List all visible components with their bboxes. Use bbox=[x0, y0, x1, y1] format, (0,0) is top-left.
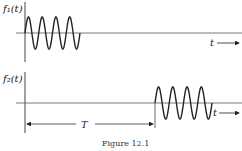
figure-canvas: f₁(t) t f₂(t) t T Figure 12.1 bbox=[0, 0, 242, 151]
figure-caption: Figure 12.1 bbox=[102, 139, 149, 148]
top-y-label: f₁(t) bbox=[2, 3, 23, 14]
bottom-plot: f₂(t) t T bbox=[2, 72, 242, 133]
top-plot: f₁(t) t bbox=[2, 2, 242, 62]
bottom-x-label: t bbox=[213, 107, 218, 118]
top-x-label: t bbox=[210, 37, 215, 48]
bottom-y-label: f₂(t) bbox=[2, 73, 23, 84]
delay-label: T bbox=[81, 119, 89, 130]
